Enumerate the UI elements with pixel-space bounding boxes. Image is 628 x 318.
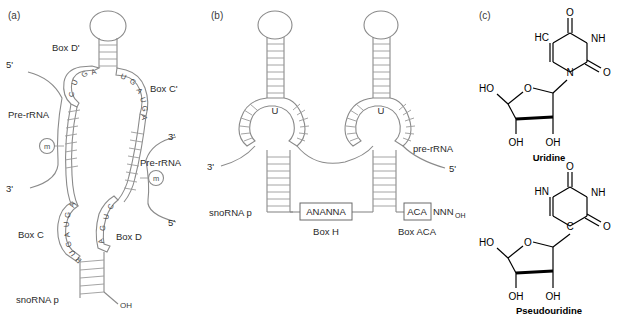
- box-aca-sequence: ACA: [407, 206, 427, 217]
- uridine-n-glycosidic-bond: [553, 80, 567, 93]
- pseudouridine-ring-o-label: O: [524, 237, 532, 248]
- box-aca-trailing-n: NNN: [433, 206, 454, 217]
- five-prime-left: 5': [6, 59, 13, 70]
- box-d-prime-motif: A G U C: [64, 66, 99, 107]
- ribose-ring-uridine: [497, 88, 553, 134]
- panel-b-diagram: U 3': [205, 0, 475, 318]
- pre-rrna-strand-left: [28, 72, 62, 188]
- pre-rrna-label-left: Pre-rRNA: [8, 109, 50, 120]
- pseudouridine-name: Pseudouridine: [516, 305, 582, 316]
- methyl-right-letter: m: [153, 174, 159, 183]
- box-c-prime-label: Box C': [150, 83, 178, 94]
- panel-c-chemical-structures: (c): [475, 0, 628, 318]
- uridine-target-right: U: [378, 105, 385, 116]
- ribose-ring-pseudouridine: [497, 242, 553, 288]
- snorna-p-label-b: snoRNA p: [209, 207, 252, 218]
- three-prime-left: 3': [6, 183, 13, 194]
- uridine-oh2-label: OH: [546, 137, 561, 148]
- pre-rrna-label-right: Pre-rRNA: [140, 157, 182, 168]
- pre-rrna-label-b: pre-rRNA: [413, 143, 454, 154]
- box-d-label: Box D: [116, 231, 142, 242]
- box-aca-trailing-oh: OH: [455, 212, 466, 219]
- methyl-mark-left: m: [40, 139, 65, 154]
- box-d-motif: C U G A: [96, 196, 118, 252]
- box-d-nt-u: U: [101, 213, 111, 220]
- uracil-ring-pseudouridine: [550, 172, 601, 226]
- pre-rrna-3prime-tail: [221, 146, 255, 166]
- box-c-prime-motif: U G A U G A: [116, 68, 150, 120]
- uracil-ring-uridine: [550, 18, 601, 72]
- snorna-backbone-left-2: [72, 107, 78, 206]
- box-c-nt-g: G: [63, 212, 72, 219]
- snorna-p-label-a: snoRNA p: [16, 294, 59, 305]
- box-c-prime-nt-a2: A: [140, 115, 149, 120]
- five-prime-b: 5': [449, 163, 456, 174]
- three-prime-b: 3': [207, 161, 214, 172]
- uridine-o4-label: O: [566, 7, 574, 18]
- panel-c-diagram: O O HC NH N: [475, 0, 628, 318]
- panel-b-h-aca-snorna: (b): [205, 0, 475, 318]
- pseudouridine-hn-label: HN: [535, 186, 549, 197]
- panel-a-diagram: A G U C Box D' U G A U G A Box C': [0, 0, 205, 318]
- box-c-prime-nt-g2: G: [140, 105, 150, 112]
- box-aca-caption: Box ACA: [398, 226, 437, 237]
- box-d-prime-label: Box D': [52, 42, 80, 53]
- uridine-name: Uridine: [533, 152, 566, 163]
- hairpin-right: U: [345, 11, 415, 146]
- pseudouridine-o4-label: O: [603, 221, 611, 232]
- hinge-connector: [297, 146, 373, 163]
- box-h: ANANNA: [300, 203, 352, 220]
- lower-stem-left: [267, 150, 290, 212]
- box-d-nt-g: G: [98, 225, 107, 231]
- pseudouridine-nh-label: NH: [591, 187, 605, 198]
- pseudouridine-oh2-label: OH: [546, 291, 561, 302]
- uridine-nh-label: NH: [591, 33, 605, 44]
- pseudouridine-c-glycosidic-bond: [553, 234, 570, 247]
- methyl-mark-right: m: [140, 171, 164, 186]
- three-prime-right: 3': [168, 131, 175, 142]
- box-c-nt-u: U: [62, 222, 71, 228]
- box-h-caption: Box H: [313, 226, 339, 237]
- figure-snorna-pseudouridine: (a) A G U C Box D': [0, 0, 628, 318]
- pseudouridine-o2-label: O: [566, 161, 574, 172]
- box-c-nt-a: A: [67, 202, 77, 209]
- uridine-o2-label: O: [603, 67, 611, 78]
- methyl-left-letter: m: [44, 142, 50, 151]
- pseudouridine-structure: O O HN NH C O HO O: [479, 161, 611, 302]
- lower-stem-right: [373, 150, 396, 212]
- closing-stem: [80, 252, 118, 304]
- box-c-label: Box C: [18, 229, 44, 240]
- box-c-motif: A G U A G U R: [58, 202, 84, 266]
- five-prime-right: 5': [168, 217, 175, 228]
- box-d-prime-nt-c: C: [67, 91, 76, 97]
- uridine-oh3-label: OH: [509, 137, 524, 148]
- pseudouridine-c5-label: C: [566, 221, 573, 232]
- panel-a-box-cd-snorna: (a) A G U C Box D': [0, 0, 205, 318]
- box-h-sequence: ANANNA: [306, 206, 346, 217]
- uridine-target-left: U: [272, 105, 279, 116]
- oh-label-a: OH: [120, 301, 132, 310]
- pseudouridine-ho-label: HO: [479, 237, 494, 248]
- pseudouridine-oh3-label: OH: [509, 291, 524, 302]
- terminal-hairpin-loop: [90, 11, 126, 68]
- hairpin-left: U: [239, 11, 309, 146]
- uridine-structure: O O HC NH N: [479, 7, 611, 148]
- uridine-ho-label: HO: [479, 83, 494, 94]
- box-aca: ACA: [404, 203, 431, 220]
- uridine-ring-o-label: O: [524, 83, 532, 94]
- pre-rrna-strand-right: [146, 137, 176, 222]
- uridine-n1-label: N: [566, 67, 573, 78]
- uridine-hc-label: HC: [535, 32, 549, 43]
